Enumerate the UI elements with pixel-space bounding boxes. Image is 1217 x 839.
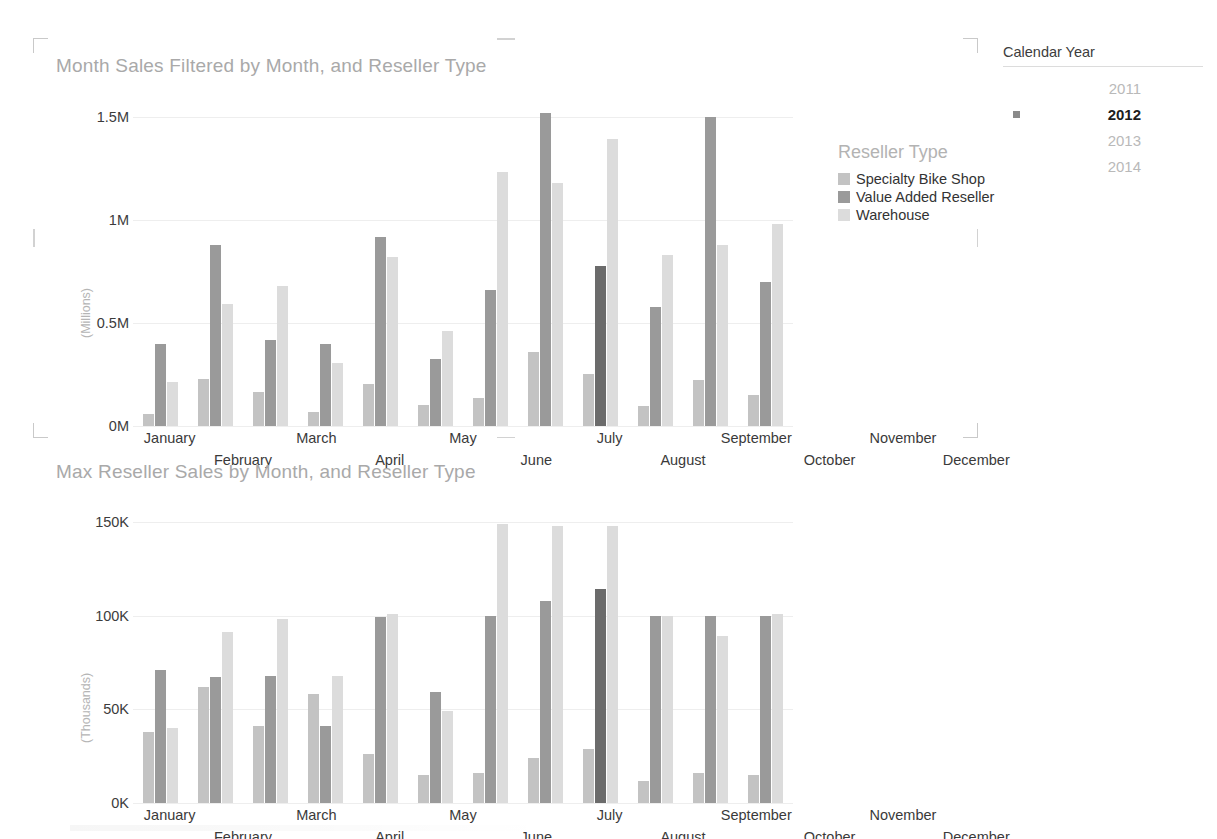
bar[interactable] [430, 692, 441, 803]
bar[interactable] [155, 344, 166, 427]
bar[interactable] [705, 616, 716, 804]
bar[interactable] [320, 726, 331, 803]
bar-group[interactable] [133, 96, 188, 426]
bar[interactable] [485, 616, 496, 804]
bar[interactable] [717, 636, 728, 803]
bar[interactable] [693, 380, 704, 426]
bar[interactable] [662, 616, 673, 804]
bar[interactable] [265, 340, 276, 426]
bar[interactable] [210, 677, 221, 803]
bar[interactable] [717, 245, 728, 427]
bar[interactable] [705, 117, 716, 426]
bar-group[interactable] [243, 96, 298, 426]
bar[interactable] [540, 601, 551, 804]
bar[interactable] [595, 266, 606, 426]
bar[interactable] [308, 694, 319, 803]
bar[interactable] [528, 352, 539, 426]
slicer-option-2013[interactable]: 2013 [1003, 127, 1203, 153]
bar-group[interactable] [628, 503, 683, 803]
bar[interactable] [583, 749, 594, 803]
bar[interactable] [167, 382, 178, 426]
bar[interactable] [418, 775, 429, 803]
calendar-year-slicer[interactable]: Calendar Year 2011201220132014 [1003, 44, 1203, 179]
bar[interactable] [540, 113, 551, 427]
bar[interactable] [430, 359, 441, 426]
bar[interactable] [748, 395, 759, 426]
bar[interactable] [485, 290, 496, 426]
slicer-option-2014[interactable]: 2014 [1003, 153, 1203, 179]
bar[interactable] [320, 344, 331, 427]
bar[interactable] [375, 237, 386, 426]
bar[interactable] [552, 526, 563, 804]
bar-group[interactable] [463, 503, 518, 803]
bar[interactable] [760, 282, 771, 426]
bar[interactable] [473, 398, 484, 426]
chart-max-reseller-sales[interactable]: Max Reseller Sales by Month, and Reselle… [33, 455, 1013, 825]
bar[interactable] [363, 754, 374, 803]
legend-item[interactable]: Warehouse [838, 207, 994, 223]
bar[interactable] [760, 616, 771, 804]
bar-group[interactable] [738, 96, 793, 426]
bar[interactable] [473, 773, 484, 803]
bar[interactable] [143, 414, 154, 426]
slicer-option-2011[interactable]: 2011 [1003, 75, 1203, 101]
bar[interactable] [442, 711, 453, 803]
bar-group[interactable] [518, 96, 573, 426]
bar-group[interactable] [738, 503, 793, 803]
bar[interactable] [253, 392, 264, 426]
bar[interactable] [693, 773, 704, 803]
bar[interactable] [222, 304, 233, 426]
bar[interactable] [332, 676, 343, 804]
bar[interactable] [363, 384, 374, 426]
bar[interactable] [418, 405, 429, 426]
bar[interactable] [497, 524, 508, 803]
bar[interactable] [387, 257, 398, 426]
bar[interactable] [210, 245, 221, 427]
bar-group[interactable] [683, 503, 738, 803]
legend-item[interactable]: Value Added Reseller [838, 189, 994, 205]
bar-group[interactable] [353, 503, 408, 803]
bar-group[interactable] [188, 503, 243, 803]
bar[interactable] [308, 412, 319, 426]
bar-group[interactable] [188, 96, 243, 426]
bar[interactable] [167, 728, 178, 803]
bar[interactable] [332, 363, 343, 426]
bar-group[interactable] [573, 96, 628, 426]
bar-group[interactable] [408, 96, 463, 426]
bar[interactable] [748, 775, 759, 803]
bar-group[interactable] [353, 96, 408, 426]
bar-group[interactable] [518, 503, 573, 803]
slicer-option-2012[interactable]: 2012 [1003, 101, 1203, 127]
bar[interactable] [552, 183, 563, 426]
bar-group[interactable] [463, 96, 518, 426]
legend-item[interactable]: Specialty Bike Shop [838, 171, 994, 187]
bar[interactable] [772, 614, 783, 803]
bar[interactable] [638, 781, 649, 804]
chart-month-sales[interactable]: Month Sales Filtered by Month, and Resel… [33, 38, 1013, 448]
bar[interactable] [607, 139, 618, 426]
bar[interactable] [638, 406, 649, 426]
bar[interactable] [772, 224, 783, 426]
bar-group[interactable] [243, 503, 298, 803]
bar[interactable] [662, 255, 673, 426]
bar[interactable] [198, 379, 209, 426]
bar-group[interactable] [298, 96, 353, 426]
bar[interactable] [650, 307, 661, 426]
bar-group[interactable] [408, 503, 463, 803]
bar[interactable] [265, 676, 276, 804]
bar-group[interactable] [683, 96, 738, 426]
bar[interactable] [387, 614, 398, 803]
bar-group[interactable] [133, 503, 188, 803]
bar-group[interactable] [628, 96, 683, 426]
bar[interactable] [595, 589, 606, 803]
bar[interactable] [277, 619, 288, 803]
bar[interactable] [253, 726, 264, 803]
bar-group[interactable] [573, 503, 628, 803]
bar[interactable] [497, 172, 508, 426]
bar[interactable] [583, 374, 594, 426]
bar[interactable] [442, 331, 453, 426]
bar[interactable] [155, 670, 166, 803]
bar[interactable] [375, 617, 386, 803]
bar[interactable] [198, 687, 209, 803]
bar[interactable] [143, 732, 154, 803]
